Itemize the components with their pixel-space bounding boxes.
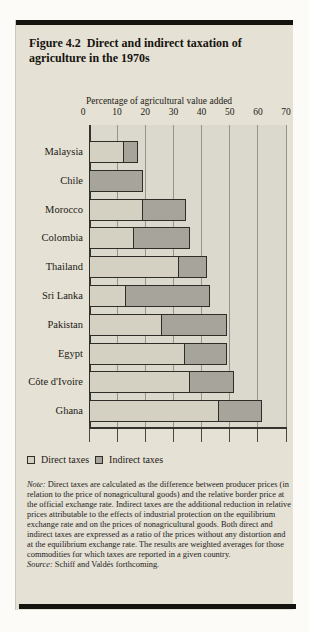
legend-swatch-indirect xyxy=(95,456,103,464)
top-rule xyxy=(16,20,293,25)
bar-row xyxy=(89,199,286,221)
bar-segment-direct xyxy=(89,371,190,393)
tick-label: 0 xyxy=(73,107,93,117)
axis-tick xyxy=(201,429,202,442)
bar-segment-indirect xyxy=(123,141,138,163)
category-label: Morocco xyxy=(16,199,83,221)
source-label: Source: xyxy=(27,560,53,569)
bar-segment-indirect xyxy=(142,199,187,221)
tick-label: 40 xyxy=(192,107,212,117)
tick-label: 50 xyxy=(220,107,240,117)
bar-segment-direct xyxy=(89,343,185,365)
bar-segment-direct xyxy=(89,141,124,163)
category-label: Thailand xyxy=(16,256,83,278)
legend-label: Indirect taxes xyxy=(109,454,163,465)
x-axis-baseline xyxy=(89,427,287,429)
axis-tick-labels: 010203040506070 xyxy=(16,107,293,119)
axis-tick xyxy=(89,429,90,442)
bar-row xyxy=(89,285,286,307)
plot-area xyxy=(89,125,286,428)
note-text: Direct taxes are calculated as the diffe… xyxy=(27,480,291,559)
axis-tick xyxy=(117,429,118,442)
category-label: Chile xyxy=(16,170,83,192)
bar-row xyxy=(89,371,286,393)
figure-label: Figure 4.2 xyxy=(29,36,81,50)
category-labels: MalaysiaChileMoroccoColombiaThailandSri … xyxy=(16,125,83,428)
source-line: Source: Schiff and Valdés forthcoming. xyxy=(27,560,291,570)
bar-segment-direct xyxy=(89,227,134,249)
bar-row xyxy=(89,256,286,278)
bar-row xyxy=(89,314,286,336)
category-label: Colombia xyxy=(16,227,83,249)
bar-segment-direct xyxy=(89,400,219,422)
bar-segment-direct xyxy=(89,314,162,336)
legend-label: Direct taxes xyxy=(41,454,89,465)
axis-tick xyxy=(145,429,146,442)
source-text: Schiff and Valdés forthcoming. xyxy=(53,560,159,569)
bar-segment-indirect xyxy=(178,256,207,278)
legend-swatch-direct xyxy=(27,456,35,464)
bar-segment-indirect xyxy=(125,285,210,307)
category-label: Ghana xyxy=(16,400,83,422)
axis-tick xyxy=(257,429,258,442)
category-label: Pakistan xyxy=(16,314,83,336)
bar-segment-indirect xyxy=(218,400,263,422)
bar-row xyxy=(89,227,286,249)
category-label: Malaysia xyxy=(16,141,83,163)
figure-panel: Figure 4.2Direct and indirect taxation o… xyxy=(15,20,293,610)
figure-title: Figure 4.2Direct and indirect taxation o… xyxy=(29,36,261,66)
bottom-rule xyxy=(19,604,296,609)
bar-row xyxy=(89,141,286,163)
legend-item: Indirect taxes xyxy=(95,454,163,465)
tick-label: 30 xyxy=(163,107,183,117)
tick-label: 60 xyxy=(248,107,268,117)
note: Note: Direct taxes are calculated as the… xyxy=(27,480,291,570)
bar-segment-direct xyxy=(89,256,179,278)
axis-title: Percentage of agricultural value added xyxy=(86,96,232,106)
bar-segment-direct xyxy=(89,199,143,221)
bar-segment-indirect xyxy=(184,343,227,365)
axis-tick xyxy=(173,429,174,442)
category-label: Côte d'Ivoire xyxy=(16,371,83,393)
axis-tick xyxy=(229,429,230,442)
bar-row xyxy=(89,400,286,422)
bar-segment-indirect xyxy=(161,314,227,336)
legend-item: Direct taxes xyxy=(27,454,89,465)
bar-row xyxy=(89,170,286,192)
bar-segment-indirect xyxy=(89,170,143,192)
category-label: Egypt xyxy=(16,343,83,365)
tick-label: 70 xyxy=(276,107,296,117)
bar-segment-indirect xyxy=(133,227,190,249)
axis-tick xyxy=(286,429,287,442)
tick-label: 20 xyxy=(135,107,155,117)
bar-segment-direct xyxy=(89,285,126,307)
category-label: Sri Lanka xyxy=(16,285,83,307)
tick-label: 10 xyxy=(107,107,127,117)
note-label: Note: xyxy=(27,480,46,489)
legend: Direct taxesIndirect taxes xyxy=(27,454,163,465)
bar-row xyxy=(89,343,286,365)
bar-segment-indirect xyxy=(189,371,234,393)
